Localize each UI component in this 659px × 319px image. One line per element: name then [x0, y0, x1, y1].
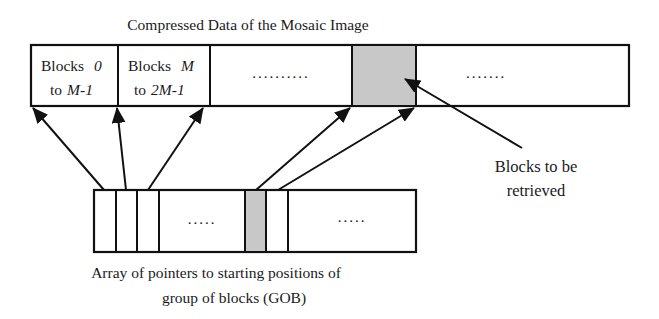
- ellipsis: .....: [188, 211, 217, 227]
- annotation-line1: Blocks to be: [495, 157, 578, 176]
- pointer-arrow: [33, 108, 104, 190]
- pointer-arrow: [148, 108, 203, 190]
- segment-1-label-line1: BlocksM: [128, 57, 195, 74]
- compressed-data-array: Blocks0 toM-1 BlocksM to2M-1 .......... …: [31, 45, 629, 106]
- pointer-arrows: [33, 108, 414, 190]
- ellipsis: .....: [338, 209, 367, 225]
- ellipsis: ..........: [252, 65, 310, 81]
- annotation-line2: retrieved: [507, 181, 566, 200]
- compressed-data-outline: [31, 45, 629, 106]
- retrieved-block-segment: [352, 46, 416, 105]
- diagram-title: Compressed Data of the Mosaic Image: [127, 16, 369, 33]
- segment-0-label-line2: toM-1: [50, 81, 93, 98]
- pointer-arrow: [256, 108, 350, 190]
- caption-line1: Array of pointers to starting positions …: [91, 264, 342, 281]
- gob-diagram: Compressed Data of the Mosaic Image Bloc…: [0, 0, 659, 319]
- segment-1-label-line2: to2M-1: [134, 81, 185, 98]
- pointer-arrow: [117, 108, 126, 190]
- ellipsis: .......: [466, 65, 506, 81]
- pointer-array: ..... .....: [94, 190, 416, 252]
- caption-line2: group of blocks (GOB): [162, 289, 306, 307]
- retrieved-pointer-cell: [245, 191, 266, 251]
- pointer-arrow: [278, 108, 414, 190]
